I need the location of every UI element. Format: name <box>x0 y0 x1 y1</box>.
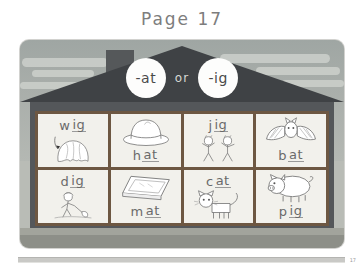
word-label: w ig <box>59 117 86 134</box>
grid-cell[interactable]: h at <box>111 114 181 167</box>
word-rime: ig <box>70 174 85 188</box>
word-picture-grid: w ig h at <box>35 111 329 226</box>
word-onset: m <box>131 205 145 218</box>
word-onset: b <box>278 149 288 162</box>
word-label: d ig <box>61 173 86 190</box>
grid-cell[interactable]: w ig <box>38 114 108 167</box>
page-title: Page 17 <box>0 0 364 29</box>
ground-strip-upper <box>20 228 344 235</box>
mat-illustration <box>113 173 179 203</box>
hat-illustration <box>113 117 179 147</box>
pig-illustration <box>258 173 324 203</box>
word-onset: c <box>206 175 215 188</box>
worksheet-scene: -at or -ig w ig <box>20 40 344 248</box>
word-rime: at <box>142 148 158 162</box>
rime-circle-ig: -ig <box>198 58 238 98</box>
wig-illustration <box>40 134 106 164</box>
cat-illustration <box>186 190 252 220</box>
word-rime: at <box>215 174 231 188</box>
grid-cell[interactable]: c at <box>184 170 254 223</box>
banner-conjunction: or <box>175 71 189 85</box>
rime-banner: -at or -ig <box>20 58 344 98</box>
word-label: c at <box>206 173 231 190</box>
rime-label-at: -at <box>136 70 157 86</box>
rime-label-ig: -ig <box>208 70 227 86</box>
bat-illustration <box>258 117 324 147</box>
grid-cell[interactable]: d ig <box>38 170 108 223</box>
word-onset: w <box>59 119 71 132</box>
footer-rule <box>18 257 345 263</box>
footer-page-number: 17 <box>350 257 356 263</box>
word-label: b at <box>278 147 304 164</box>
word-label: p ig <box>279 203 304 220</box>
footer: 17 <box>18 257 356 263</box>
grid-cell[interactable]: b at <box>256 114 326 167</box>
word-rime: ig <box>72 118 87 132</box>
word-label: m at <box>131 203 161 220</box>
grid-cell[interactable]: p ig <box>256 170 326 223</box>
rime-circle-at: -at <box>126 58 166 98</box>
word-rime: at <box>145 204 161 218</box>
ground-strip <box>20 235 344 248</box>
word-onset: p <box>279 205 289 218</box>
word-rime: ig <box>289 204 304 218</box>
grid-cell[interactable]: j ig <box>184 114 254 167</box>
word-onset: d <box>61 175 71 188</box>
word-label: h at <box>133 147 159 164</box>
word-rime: ig <box>214 118 229 132</box>
worksheet-card: -at or -ig w ig <box>20 40 344 248</box>
word-onset: h <box>133 149 143 162</box>
jig-dancers-illustration <box>186 134 252 164</box>
grid-cell[interactable]: m at <box>111 170 181 223</box>
digging-boy-illustration <box>40 190 106 220</box>
word-rime: at <box>288 148 304 162</box>
word-label: j ig <box>208 117 228 134</box>
